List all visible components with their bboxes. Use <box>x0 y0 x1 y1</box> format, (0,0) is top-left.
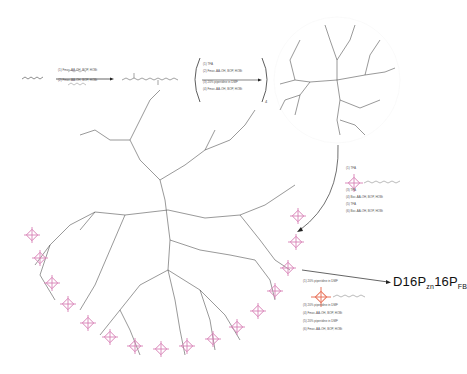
step2-reagent-4: (4) Fmoc-AA-OH, BOP, HOBt <box>203 87 242 91</box>
step2-reagent-2: (2) Fmoc-AA-OH, BOP, HOBt <box>203 69 242 73</box>
step1-reagent-1: (1) Fmoc-AA-OH, BOP, HOBt <box>58 68 97 72</box>
step3-reagent-6: (6) Boc-AA-OH, BOP, HOBt <box>346 209 390 213</box>
starting-material <box>22 77 43 79</box>
step4-reagent-6: (6) Fmoc-AA-OH, BOP, HOBt <box>303 327 353 331</box>
step4-reagent-4: (4) Fmoc-AA-OH, BOP, HOBt <box>303 311 353 315</box>
product-sub-zn: zn <box>426 283 434 290</box>
step4-reagent-5: (5) 20% piperidine in DMF <box>303 319 353 323</box>
step3-reagent-4: (4) Boc-AA-OH, BOP, HOBt <box>346 195 390 199</box>
step3-arrow <box>297 145 338 232</box>
product-prefix: D16P <box>393 274 426 289</box>
step4-reagent-3: (3) 20% piperidine in DMF <box>303 303 353 307</box>
step1-reagents: (1) Fmoc-AA-OH, BOP, HOBt (2) Fmoc-AA-OH… <box>58 68 97 82</box>
step3-reagent-1: (1) TFA <box>346 166 390 170</box>
porphyrin-periphery <box>24 208 306 357</box>
product-mid: 16P <box>434 274 458 289</box>
step3-reagents: (1) TFA (2) porphyrin-COOH, BOP, HOBt (3… <box>346 166 390 213</box>
step2-reagents: (1) TFA (2) Fmoc-AA-OH, BOP, HOBt (3) 20… <box>203 62 242 91</box>
step3-reagent-3: (3) TFA <box>346 188 390 192</box>
step2-reagent-3: (3) 20% piperidine in DMF <box>203 80 242 84</box>
dendrimer-g1 <box>274 17 400 143</box>
step2-repeat-count: 4 <box>265 100 267 104</box>
step2-reagent-1: (1) TFA <box>203 62 242 66</box>
intermediate-1 <box>122 73 178 85</box>
step4-reagents: (1) 20% piperidine in DMF (2) Zn-porphyr… <box>303 279 353 331</box>
step3-reagent-5: (5) TFA <box>346 202 390 206</box>
step1-reagent-2: (2) Fmoc-AA-OH, BOP, HOBt <box>58 78 97 82</box>
product-sub-fb: FB <box>458 283 467 290</box>
product-label: D16Pzn16PFB <box>393 274 467 290</box>
step4-reagent-1: (1) 20% piperidine in DMF <box>303 279 353 283</box>
